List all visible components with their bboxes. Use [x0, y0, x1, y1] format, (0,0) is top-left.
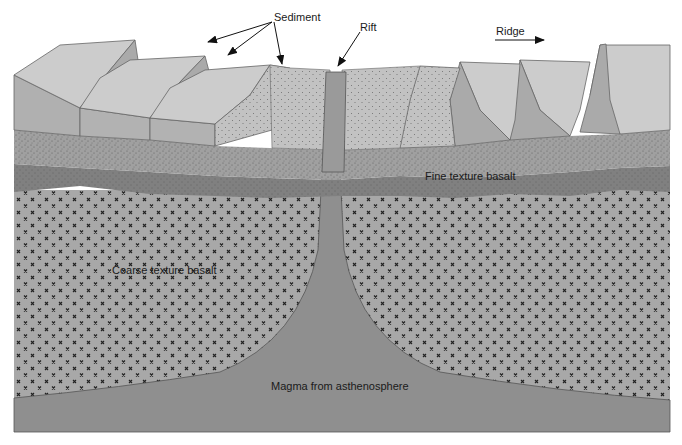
coarse-basalt-label: Coarse texture basalt	[112, 265, 217, 276]
magma-label: Magma from asthenosphere	[271, 381, 409, 392]
fault-blocks-right	[400, 44, 670, 148]
sediment-label: Sediment	[274, 12, 320, 23]
fault-blocks-left	[14, 40, 290, 146]
ridge-cross-section	[0, 0, 682, 445]
rift-label: Rift	[360, 22, 377, 33]
ridge-label: Ridge	[496, 26, 525, 37]
rift-dike	[322, 72, 346, 172]
fine-basalt-label: Fine texture basalt	[425, 171, 516, 182]
